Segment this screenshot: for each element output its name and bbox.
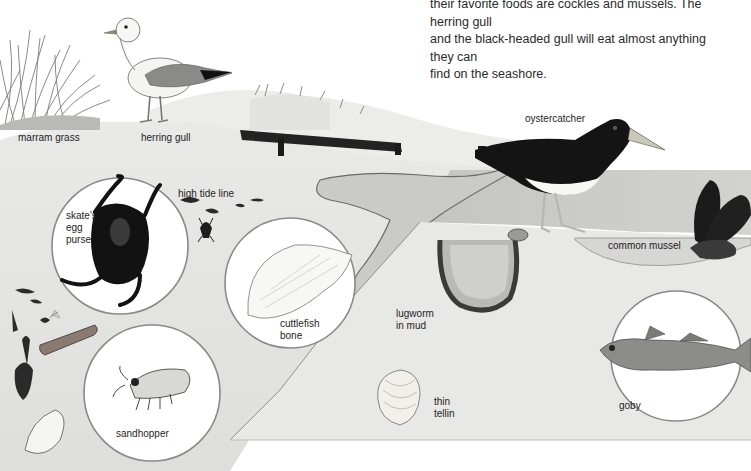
label-herring-gull: herring gull	[141, 132, 190, 144]
label-marram-grass: marram grass	[18, 132, 80, 144]
intro-line-2: and the black-headed gull will eat almos…	[430, 31, 730, 66]
intro-paragraph: their favorite foods are cockles and mus…	[430, 0, 730, 84]
seashore-illustration: their favorite foods are cockles and mus…	[0, 0, 751, 471]
label-thin-tellin: thin tellin	[434, 396, 455, 420]
label-lugworm: lugworm in mud	[396, 308, 434, 332]
intro-line-1: their favorite foods are cockles and mus…	[430, 0, 730, 31]
label-common-mussel: common mussel	[608, 240, 681, 252]
label-cuttlefish-bone: cuttlefish bone	[280, 318, 319, 342]
label-sandhopper: sandhopper	[116, 428, 169, 440]
label-skates-egg-purse: skate's egg purse	[66, 210, 97, 246]
marram-grass	[0, 30, 110, 130]
label-goby: goby	[619, 400, 641, 412]
intro-line-3: find on the seashore.	[430, 66, 730, 84]
label-high-tide-line: high tide line	[178, 188, 234, 200]
label-oystercatcher: oystercatcher	[525, 113, 585, 125]
sandhopper-inset	[84, 325, 220, 461]
